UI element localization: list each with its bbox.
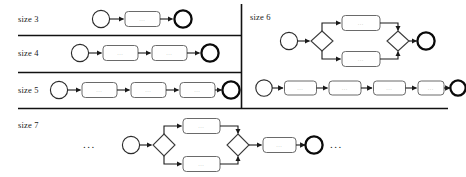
activity-label: ...	[146, 88, 152, 93]
row-label-size-6: size 6	[250, 13, 271, 22]
row-size-7: ... ... ...	[122, 119, 322, 172]
activity-label: ...	[195, 88, 201, 93]
row-label-size-3: size 3	[18, 15, 39, 24]
sequence-flow	[220, 157, 238, 165]
leading-ellipsis: ...	[83, 139, 96, 150]
start-event	[256, 80, 272, 96]
start-event	[50, 81, 67, 98]
end-event	[450, 80, 465, 95]
sequence-flow	[322, 51, 341, 59]
end-event	[417, 32, 434, 49]
sequence-flow	[380, 23, 398, 31]
row-label-size-7: size 7	[18, 121, 39, 130]
end-event	[201, 44, 218, 61]
sequence-flow	[164, 156, 182, 164]
row-label-size-4: size 4	[18, 49, 39, 58]
activity-label: ...	[118, 51, 124, 56]
trailing-ellipsis: ...	[330, 139, 343, 150]
row-size-5: ... ... ...	[50, 81, 239, 98]
gateway-split	[153, 134, 175, 156]
row-size-6-variant-parallel: ... ...	[280, 16, 434, 67]
sequence-flow	[380, 52, 398, 60]
activity-label: ...	[358, 57, 364, 62]
sequence-flow	[164, 126, 182, 134]
start-event	[280, 32, 297, 49]
start-event	[122, 136, 139, 153]
row-size-6-variant-sequential: ... ... ... ...	[256, 80, 466, 96]
row-size-3: ...	[92, 10, 191, 27]
sequence-flow	[322, 23, 341, 31]
process-model-figure: ... ... ... ... ...	[0, 0, 466, 177]
row-size-4: ... ...	[71, 44, 218, 61]
sequence-flow	[220, 126, 238, 134]
start-event	[92, 10, 109, 27]
end-event	[174, 10, 191, 27]
figure-canvas: ... ... ... ... ...	[0, 0, 466, 177]
gateway-split	[311, 31, 333, 51]
activity-label: ...	[277, 143, 283, 148]
end-event	[305, 136, 322, 153]
activity-label: ...	[199, 124, 205, 129]
activity-label: ...	[298, 86, 304, 91]
activity-label: ...	[358, 21, 364, 26]
activity-label: ...	[428, 86, 434, 91]
activity-label: ...	[167, 51, 173, 56]
gateway-join	[387, 31, 409, 51]
activity-label: ...	[97, 88, 103, 93]
gateway-join	[227, 134, 249, 156]
activity-label: ...	[199, 162, 205, 167]
activity-label: ...	[342, 86, 348, 91]
end-event	[222, 81, 239, 98]
start-event	[71, 44, 88, 61]
activity-label: ...	[140, 17, 146, 22]
activity-label: ...	[387, 86, 393, 91]
row-label-size-5: size 5	[18, 86, 39, 95]
